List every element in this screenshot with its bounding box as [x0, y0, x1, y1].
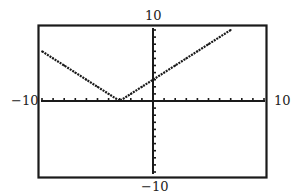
data-point [152, 79, 154, 81]
data-point [74, 72, 76, 74]
data-point [163, 72, 165, 74]
data-point [208, 43, 210, 45]
series-layer [41, 29, 232, 102]
data-point [52, 58, 54, 60]
ymax-label: 10 [145, 9, 162, 22]
data-point [174, 65, 176, 67]
graph-screen [0, 0, 294, 196]
data-point [119, 100, 121, 102]
data-point [141, 86, 143, 88]
data-point [230, 29, 232, 31]
data-point [41, 50, 43, 52]
data-point [108, 93, 110, 95]
data-point [219, 36, 221, 38]
series-line [42, 30, 231, 101]
data-point [97, 86, 99, 88]
data-point [197, 50, 199, 52]
xmin-label: −10 [11, 94, 38, 107]
data-point [63, 65, 65, 67]
data-point [86, 79, 88, 81]
data-point [130, 93, 132, 95]
data-point [185, 58, 187, 60]
ymin-label: −10 [141, 180, 168, 193]
xmax-label: 10 [274, 94, 291, 107]
